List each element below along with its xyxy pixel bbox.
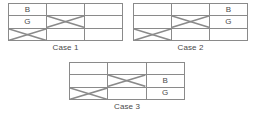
grid-cell <box>70 75 108 87</box>
grid-cell <box>108 63 146 75</box>
grid-cell <box>47 16 85 28</box>
grid-cell <box>70 88 108 100</box>
grid-cell <box>47 4 85 16</box>
grid-cell <box>210 29 248 41</box>
caption-case-2: Case 2 <box>133 44 248 52</box>
grid-cell: G <box>147 88 185 100</box>
grid-cell <box>9 29 47 41</box>
grid-cell <box>172 4 210 16</box>
grid-cell: B <box>210 4 248 16</box>
cell-label: G <box>225 18 231 26</box>
grid-cell <box>172 16 210 28</box>
grid-cell <box>147 63 185 75</box>
cell-label: G <box>24 18 30 26</box>
grid-cell <box>85 16 123 28</box>
grid-cell <box>85 4 123 16</box>
cross-out-icon <box>134 29 171 40</box>
caption-case-3: Case 3 <box>69 103 185 111</box>
grid-cell <box>85 29 123 41</box>
cell-label: B <box>25 5 31 13</box>
grid-cell <box>134 29 172 41</box>
grid-cell <box>172 29 210 41</box>
grid-cell <box>134 16 172 28</box>
cross-out-icon <box>47 16 84 27</box>
grid-case-2: BG <box>133 3 248 41</box>
grid-case-3: BG <box>69 62 185 100</box>
figure-case-3: BG Case 3 <box>69 62 185 111</box>
cell-label: B <box>163 77 169 85</box>
cross-out-icon <box>108 75 145 86</box>
grid-cell <box>47 29 85 41</box>
figure-case-1: BG Case 1 <box>8 3 123 52</box>
grid-cell: G <box>210 16 248 28</box>
grid-case-1: BG <box>8 3 123 41</box>
grid-cell <box>108 75 146 87</box>
cross-out-icon <box>9 29 46 40</box>
cross-out-icon <box>70 88 107 99</box>
grid-cell <box>134 4 172 16</box>
figure-case-2: BG Case 2 <box>133 3 248 52</box>
grid-cell: G <box>9 16 47 28</box>
cell-label: B <box>226 5 232 13</box>
cross-out-icon <box>172 16 209 27</box>
grid-cell: B <box>147 75 185 87</box>
grid-cell <box>108 88 146 100</box>
cell-label: G <box>162 89 168 97</box>
caption-case-1: Case 1 <box>8 44 123 52</box>
grid-cell <box>70 63 108 75</box>
grid-cell: B <box>9 4 47 16</box>
